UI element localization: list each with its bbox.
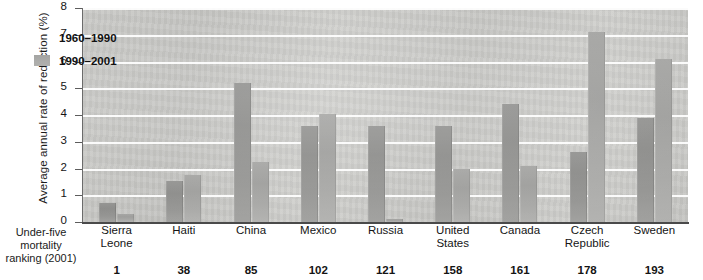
y-axis-tick-label: 4 (45, 107, 67, 119)
bar (301, 126, 318, 222)
x-axis-category-rank: 38 (150, 264, 217, 276)
x-axis-corner-label: Under-five mortality ranking (2001) (2, 226, 80, 266)
x-axis-category: Canada161 (486, 224, 553, 237)
x-axis-category: Russia121 (352, 224, 419, 237)
x-axis-category-rank: 102 (285, 264, 352, 276)
x-axis-category: United States158 (419, 224, 486, 251)
y-axis-tick-mark (75, 142, 82, 143)
bar (637, 118, 654, 222)
bar (166, 181, 183, 222)
bar (117, 214, 134, 222)
bar (368, 126, 385, 222)
plot-area (83, 8, 688, 222)
series-2-swatch-icon (34, 55, 50, 66)
bar-chart: Average annual rate of reduction (%) 012… (0, 0, 703, 280)
y-axis-tick-label: 2 (45, 161, 67, 173)
bar (319, 114, 336, 222)
bar (502, 104, 519, 222)
x-axis-category-name: Czech Republic (554, 224, 621, 251)
gridline (83, 8, 688, 10)
x-axis-category-rank: 193 (621, 264, 688, 276)
legend: 1960–1990 1990–2001 (34, 28, 117, 74)
series-1-swatch-icon (34, 32, 50, 43)
x-axis-category-name: Sweden (621, 224, 688, 237)
bar (252, 162, 269, 222)
x-axis-category: China85 (217, 224, 284, 237)
y-axis-tick-mark (75, 169, 82, 170)
y-axis-tick-mark (75, 88, 82, 89)
bar (588, 32, 605, 222)
y-axis-tick-mark (75, 8, 82, 9)
x-axis-category-rank: 158 (419, 264, 486, 276)
x-axis-category-name: Sierra Leone (83, 224, 150, 251)
y-axis-tick-mark (75, 115, 82, 116)
x-axis-category-rank: 178 (554, 264, 621, 276)
legend-item-label: 1990–2001 (59, 55, 117, 67)
bar (453, 169, 470, 223)
x-axis-category-name: Russia (352, 224, 419, 237)
y-axis-tick-mark (75, 195, 82, 196)
x-axis-category-name: United States (419, 224, 486, 251)
y-axis-tick-mark (75, 222, 82, 223)
x-axis-category-name: Mexico (285, 224, 352, 237)
x-axis-category: Mexico102 (285, 224, 352, 237)
x-axis-category-rank: 85 (217, 264, 284, 276)
y-axis-tick-label: 8 (45, 0, 67, 12)
bar (570, 152, 587, 222)
x-axis-category-name: Canada (486, 224, 553, 237)
y-axis-tick-label: 3 (45, 134, 67, 146)
x-axis-category: Haiti38 (150, 224, 217, 237)
bar (234, 83, 251, 222)
bar (520, 166, 537, 222)
x-axis-category: Sweden193 (621, 224, 688, 237)
x-axis-category-rank: 121 (352, 264, 419, 276)
x-axis-category-rank: 1 (83, 264, 150, 276)
x-axis-block: Under-five mortality ranking (2001) Sier… (0, 224, 703, 280)
x-axis-category-name: Haiti (150, 224, 217, 237)
x-axis-category: Sierra Leone1 (83, 224, 150, 251)
bar (655, 59, 672, 222)
x-axis-category-rank: 161 (486, 264, 553, 276)
bar (435, 126, 452, 222)
bar (184, 175, 201, 222)
bar (99, 203, 116, 222)
legend-item: 1990–2001 (34, 51, 117, 70)
legend-item: 1960–1990 (34, 28, 117, 47)
x-axis-category: Czech Republic178 (554, 224, 621, 251)
x-axis-category-name: China (217, 224, 284, 237)
y-axis-tick-label: 1 (45, 187, 67, 199)
y-axis-tick-label: 5 (45, 80, 67, 92)
legend-item-label: 1960–1990 (59, 32, 117, 44)
